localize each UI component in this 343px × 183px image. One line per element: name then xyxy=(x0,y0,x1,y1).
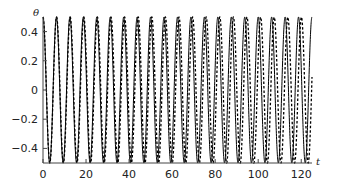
x-tick-label: 20 xyxy=(79,168,93,181)
x-ticks: 020406080100120 xyxy=(40,159,312,181)
x-tick-label: 80 xyxy=(208,168,222,181)
plot-lines xyxy=(43,17,312,163)
x-tick-label: 40 xyxy=(122,168,136,181)
x-tick-label: 100 xyxy=(248,168,269,181)
chart: 0.40.20−0.2−0.4 020406080100120 θ t xyxy=(0,0,343,183)
x-tick-label: 60 xyxy=(165,168,179,181)
y-axis-label: θ xyxy=(33,7,39,18)
y-tick-label: −0.4 xyxy=(11,142,38,155)
y-tick-label: 0 xyxy=(31,84,38,97)
x-tick-label: 120 xyxy=(291,168,312,181)
x-axis-label: t xyxy=(316,156,321,167)
y-ticks: 0.40.20−0.2−0.4 xyxy=(11,26,47,156)
series-dashed-line xyxy=(43,17,312,163)
x-tick-label: 0 xyxy=(40,168,47,181)
y-tick-label: −0.2 xyxy=(11,113,38,126)
y-tick-label: 0.4 xyxy=(21,26,39,39)
y-tick-label: 0.2 xyxy=(21,55,39,68)
